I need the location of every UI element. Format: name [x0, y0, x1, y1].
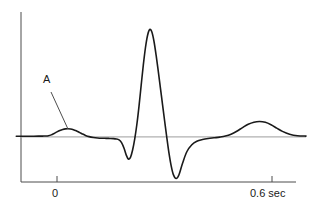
annotation-label-a: A [43, 74, 50, 85]
waveform-trace [16, 29, 306, 178]
ecg-waveform-figure: 0 0.6 sec A [0, 0, 327, 214]
x-tick-label-0: 0 [52, 188, 58, 199]
annotation-a-leader-line [51, 92, 68, 129]
plot-canvas [0, 0, 327, 214]
x-tick-label-06: 0.6 sec [250, 188, 285, 199]
